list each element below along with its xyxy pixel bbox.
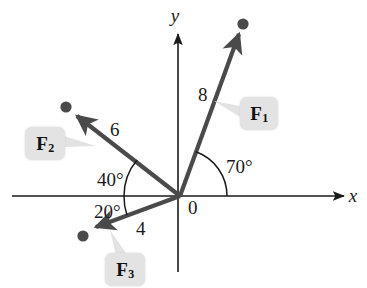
callout-label-f2: F2 <box>25 127 65 160</box>
callout-tail-f1 <box>214 101 240 117</box>
callout-f1-text: F <box>250 104 262 123</box>
callout-f2-text: F <box>36 134 48 153</box>
force-vector-figure: x y 0 70° 40° 20° 8 6 4 F1 F2 <box>0 0 367 288</box>
magnitude-label-f3: 4 <box>136 218 146 239</box>
callout-f1-subscript: 1 <box>262 112 268 124</box>
angle-label-70: 70° <box>226 156 253 177</box>
angle-label-40: 40° <box>97 169 124 190</box>
y-axis-label: y <box>169 5 180 26</box>
angle-arc-20 <box>124 196 127 215</box>
angle-arc-40 <box>124 160 137 196</box>
callout-label-f3: F3 <box>105 253 145 286</box>
vector-f2-tip-dot <box>60 101 71 112</box>
vector-f3-tip-dot <box>77 230 88 241</box>
callout-label-f1: F1 <box>240 97 278 130</box>
callout-f2-subscript: 2 <box>48 142 54 154</box>
vector-f1-tip-dot <box>237 18 248 29</box>
callout-f3-subscript: 3 <box>128 268 134 280</box>
magnitude-label-f2: 6 <box>110 119 120 140</box>
origin-label: 0 <box>188 197 198 218</box>
magnitude-label-f1: 8 <box>198 84 208 105</box>
vector-f2 <box>77 116 180 196</box>
angle-label-20: 20° <box>94 201 121 222</box>
callout-tail-f2 <box>64 136 96 147</box>
angle-arc-70 <box>196 152 227 196</box>
callout-f3-text: F <box>116 260 128 279</box>
x-axis-label: x <box>348 185 358 206</box>
